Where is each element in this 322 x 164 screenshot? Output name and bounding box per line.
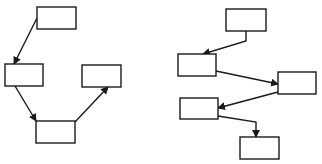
right-box-g — [278, 72, 316, 94]
right-box-i — [240, 137, 279, 159]
right-arrow-e-to-f — [203, 31, 246, 54]
left-box-a — [37, 7, 76, 29]
right-box-h — [180, 98, 218, 119]
right-arrow-g-to-h — [218, 92, 278, 108]
right-arrow-f-to-g — [216, 71, 278, 84]
left-box-b — [5, 64, 43, 86]
right-flowchart — [178, 9, 316, 159]
left-box-d — [36, 121, 75, 143]
left-arrow-a-to-b — [14, 18, 37, 64]
flow-diagram-canvas — [0, 0, 322, 164]
right-box-e — [226, 9, 266, 31]
left-arrow-d-to-c — [75, 87, 108, 122]
left-flowchart — [5, 7, 121, 143]
right-arrow-h-to-i — [218, 116, 256, 137]
flow-diagram — [0, 0, 322, 164]
left-box-c — [82, 65, 121, 87]
left-arrow-b-to-d — [15, 86, 36, 121]
right-box-f — [178, 54, 216, 76]
